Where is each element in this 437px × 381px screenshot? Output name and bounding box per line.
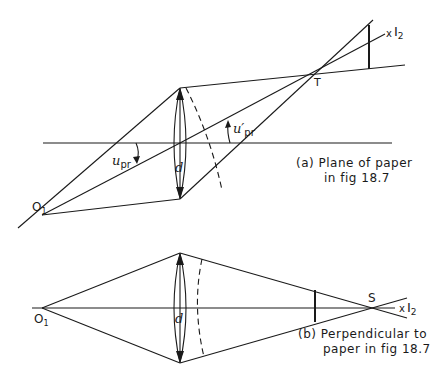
- angle-label-upr-prime: u′pr: [233, 121, 256, 138]
- caption-b-line1: (b) Perpendicular to: [298, 327, 427, 341]
- image-label-i2: I2: [407, 300, 417, 317]
- aperture-arrow-up-icon: [176, 253, 184, 265]
- panel-b-perpendicular-to-paper: O1 d S x I2 (b) Perpendicular to paper i…: [32, 253, 431, 363]
- image-label-i2: I2: [394, 24, 404, 41]
- focus-label-s: S: [368, 291, 376, 305]
- aperture-label-d: d: [175, 160, 183, 175]
- image-marker-x: x: [399, 303, 405, 314]
- marginal-ray-lower-in: [42, 308, 180, 363]
- object-label-o1: O1: [34, 312, 49, 328]
- chief-ray-in: [42, 143, 180, 215]
- object-label-o1: O1: [32, 200, 47, 216]
- wavefront-dashed-arc: [186, 88, 222, 190]
- marginal-ray-upper-in: [42, 253, 180, 308]
- aperture-arrow-down-icon: [176, 351, 184, 363]
- angle-arrow-upr-prime-icon: [225, 120, 231, 128]
- caption-a-line2: in fig 18.7: [324, 171, 390, 185]
- focus-label-t: T: [313, 76, 321, 89]
- panel-a-plane-of-paper: O1 upr u′pr d T x I2 (a) Plane of paper …: [18, 20, 413, 228]
- caption-b-line2: paper in fig 18.7: [323, 342, 431, 356]
- angle-arrow-upr-icon: [133, 156, 140, 164]
- angle-label-upr: upr: [112, 153, 132, 170]
- chief-ray-out: [180, 34, 385, 143]
- aperture-label-d: d: [175, 311, 183, 326]
- caption-a-line1: (a) Plane of paper: [296, 156, 413, 170]
- optics-diagram: O1 upr u′pr d T x I2 (a) Plane of paper …: [0, 0, 437, 381]
- image-marker-x: x: [386, 28, 392, 39]
- marginal-ray-upper-out: [180, 65, 405, 88]
- marginal-ray-lower-in: [42, 199, 180, 215]
- aperture-arrow-down-icon: [176, 187, 184, 199]
